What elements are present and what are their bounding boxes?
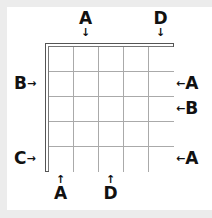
grid-cell[interactable] [149,47,174,72]
arrow-down-icon: ↓ [156,27,165,38]
grid-cell[interactable] [124,97,149,122]
arrow-down-icon: ↓ [81,27,90,38]
grid-cell[interactable] [74,72,99,97]
grid-cell[interactable] [124,122,149,147]
grid-cell[interactable] [124,72,149,97]
right-clue-row-2: ← A [176,71,198,96]
top-clue-col-2: A ↓ [73,10,98,38]
grid-cell[interactable] [49,72,74,97]
clue-letter: C [14,150,26,167]
arrow-left-icon: ← [176,103,185,114]
grid-cell[interactable] [49,122,74,147]
clue-letter: A [79,10,92,27]
right-clue-row-5: ← A [176,146,198,171]
grid-cell[interactable] [49,97,74,122]
arrow-right-icon: → [27,78,36,89]
grid-cell[interactable] [149,72,174,97]
grid-cell[interactable] [49,47,74,72]
grid-cell[interactable] [99,122,124,147]
grid-cell[interactable] [99,147,124,172]
puzzle-grid [48,46,173,171]
left-clue-row-2: B → [14,71,36,96]
grid-cell[interactable] [99,97,124,122]
clue-letter: B [185,100,198,117]
bottom-clue-col-3: ↑ D [98,174,123,202]
clue-letter: D [153,10,167,27]
left-clue-row-5: C → [14,146,36,171]
grid-cell[interactable] [49,147,74,172]
grid-cell[interactable] [99,47,124,72]
grid-cell[interactable] [149,122,174,147]
clue-letter: A [185,75,198,92]
grid-cell[interactable] [74,147,99,172]
grid-cell[interactable] [74,47,99,72]
grid-cell[interactable] [74,97,99,122]
arrow-left-icon: ← [176,153,185,164]
bottom-clue-col-1: ↑ A [48,174,73,202]
grid-cell[interactable] [99,72,124,97]
top-clue-col-5: D ↓ [148,10,173,38]
right-clue-row-3: ← B [176,96,198,121]
arrow-left-icon: ← [176,78,185,89]
grid-cell[interactable] [124,47,149,72]
clue-letter: A [54,185,67,202]
grid-cell[interactable] [149,147,174,172]
arrow-right-icon: → [26,153,35,164]
clue-letter: D [103,185,117,202]
grid-cell[interactable] [124,147,149,172]
grid-cell[interactable] [149,97,174,122]
clue-letter: A [185,150,198,167]
grid-cell[interactable] [74,122,99,147]
clue-letter: B [14,75,27,92]
